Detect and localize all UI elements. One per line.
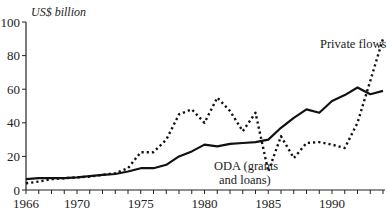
x-tick-label: 1966 xyxy=(13,196,40,211)
y-axis-label: US$ billion xyxy=(31,5,86,19)
oda-line xyxy=(26,88,383,180)
y-tick-label: 80 xyxy=(7,48,20,63)
y-tick-label: 100 xyxy=(1,15,21,30)
y-tick-label: 40 xyxy=(7,115,20,130)
x-tick-label: 1985 xyxy=(255,196,281,211)
x-tick-label: 1990 xyxy=(319,196,345,211)
private-flows-line xyxy=(26,39,383,184)
private-flows-annotation: Private flows xyxy=(320,37,386,51)
y-tick-label: 20 xyxy=(7,149,20,164)
x-tick-label: 1975 xyxy=(128,196,154,211)
x-tick-label: 1980 xyxy=(192,196,218,211)
series-lines xyxy=(26,39,383,184)
x-tick-label: 1970 xyxy=(64,196,90,211)
oda-annotation-line2: and loans) xyxy=(219,173,271,187)
y-tick-label: 60 xyxy=(7,82,20,97)
line-chart: 020406080100196619701975198019851990 US$… xyxy=(0,0,387,219)
oda-annotation-line1: ODA (grants xyxy=(214,159,278,173)
